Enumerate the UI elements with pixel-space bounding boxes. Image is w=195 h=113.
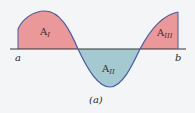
caption: (a) [89, 94, 103, 105]
label-b-bound: b [175, 52, 181, 63]
label-a-bound: a [15, 52, 21, 63]
signed-area-diagram: AI AII AIII a b (a) [0, 0, 195, 113]
